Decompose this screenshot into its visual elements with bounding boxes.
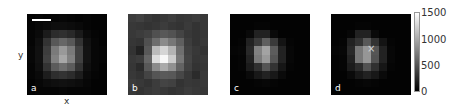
heatmap-cell — [75, 55, 83, 63]
heatmap-cell — [91, 30, 99, 38]
heatmap-cell — [238, 79, 246, 87]
heatmap-cell — [347, 87, 355, 95]
heatmap-cell — [238, 30, 246, 38]
heatmap-cell — [144, 46, 152, 54]
heatmap-cell — [67, 71, 75, 79]
heatmap-cell — [184, 22, 192, 30]
heatmap-cell — [83, 14, 91, 22]
heatmap-cell — [246, 71, 254, 79]
heatmap-cell — [246, 87, 254, 95]
heatmap-cell — [403, 30, 411, 38]
heatmap-cell — [91, 63, 99, 71]
heatmap-cell — [51, 71, 59, 79]
heatmap-cell — [43, 63, 51, 71]
heatmap-cell — [387, 30, 395, 38]
heatmap-cell — [278, 63, 286, 71]
heatmap-cell — [371, 63, 379, 71]
heatmap-cell — [192, 22, 200, 30]
heatmap-cell — [83, 22, 91, 30]
heatmap-cell — [270, 87, 278, 95]
heatmap-cell — [355, 63, 363, 71]
heatmap-cell — [294, 79, 302, 87]
heatmap-cell — [403, 55, 411, 63]
heatmap-cell — [363, 63, 371, 71]
heatmap-cell — [230, 38, 238, 46]
heatmap-cell — [168, 79, 176, 87]
heatmap-cell — [262, 30, 270, 38]
heatmap-cell — [246, 38, 254, 46]
heatmap-cell — [67, 14, 75, 22]
heatmap-cell — [403, 71, 411, 79]
heatmap-cell — [35, 46, 43, 54]
heatmap-cell — [152, 38, 160, 46]
heatmap-cell — [99, 38, 107, 46]
heatmap-cell — [331, 22, 339, 30]
heatmap-cell — [254, 22, 262, 30]
heatmap-cell — [160, 79, 168, 87]
heatmap-cell — [192, 63, 200, 71]
heatmap-cell — [286, 87, 294, 95]
heatmap-cell — [152, 87, 160, 95]
x-axis-label: x — [64, 97, 69, 105]
heatmap-cell — [75, 46, 83, 54]
heatmap-cell — [99, 71, 107, 79]
heatmap-cell — [83, 38, 91, 46]
heatmap-cell — [59, 55, 67, 63]
heatmap-cell — [254, 71, 262, 79]
heatmap-cell — [339, 55, 347, 63]
heatmap-cell — [246, 79, 254, 87]
heatmap-cell — [184, 38, 192, 46]
heatmap-cell — [246, 30, 254, 38]
heatmap-cell — [168, 30, 176, 38]
heatmap-cell — [355, 30, 363, 38]
heatmap-cell — [67, 87, 75, 95]
heatmap-cell — [363, 79, 371, 87]
heatmap-cell — [168, 38, 176, 46]
heatmap-cell — [379, 71, 387, 79]
heatmap-cell — [262, 14, 270, 22]
heatmap-cell — [176, 38, 184, 46]
heatmap-cell — [35, 71, 43, 79]
heatmap-cell — [379, 87, 387, 95]
heatmap-cell — [347, 46, 355, 54]
heatmap-cell — [302, 63, 310, 71]
heatmap-cell — [75, 22, 83, 30]
heatmap-cell — [136, 38, 144, 46]
heatmap-cell — [27, 30, 35, 38]
heatmap-cell — [387, 71, 395, 79]
heatmap-cell — [75, 87, 83, 95]
heatmap-cell — [67, 38, 75, 46]
heatmap-cell — [355, 14, 363, 22]
heatmap-cell — [99, 79, 107, 87]
heatmap-cell — [347, 79, 355, 87]
heatmap-cell — [59, 71, 67, 79]
heatmap-cell — [371, 71, 379, 79]
heatmap-cell — [278, 14, 286, 22]
heatmap-cell — [184, 55, 192, 63]
heatmap-cell — [200, 22, 208, 30]
heatmap-cell — [238, 71, 246, 79]
heatmap-cell — [152, 71, 160, 79]
heatmap-cell — [83, 79, 91, 87]
heatmap-cell — [302, 79, 310, 87]
heatmap-cell — [43, 87, 51, 95]
heatmap-cell — [99, 46, 107, 54]
heatmap-cell — [395, 79, 403, 87]
heatmap-cell — [355, 55, 363, 63]
heatmap-cell — [270, 30, 278, 38]
heatmap-cell — [75, 14, 83, 22]
heatmap-cell — [168, 14, 176, 22]
heatmap-cell — [184, 46, 192, 54]
heatmap-cell — [136, 71, 144, 79]
heatmap-cell — [302, 30, 310, 38]
heatmap-cell — [254, 38, 262, 46]
heatmap-cell — [144, 30, 152, 38]
heatmap-cell — [91, 14, 99, 22]
heatmap-cell — [331, 63, 339, 71]
heatmap-cell — [184, 71, 192, 79]
heatmap-cell — [254, 55, 262, 63]
heatmap-cell — [262, 55, 270, 63]
heatmap-cell — [302, 22, 310, 30]
heatmap-cell — [59, 22, 67, 30]
heatmap-cell — [43, 79, 51, 87]
